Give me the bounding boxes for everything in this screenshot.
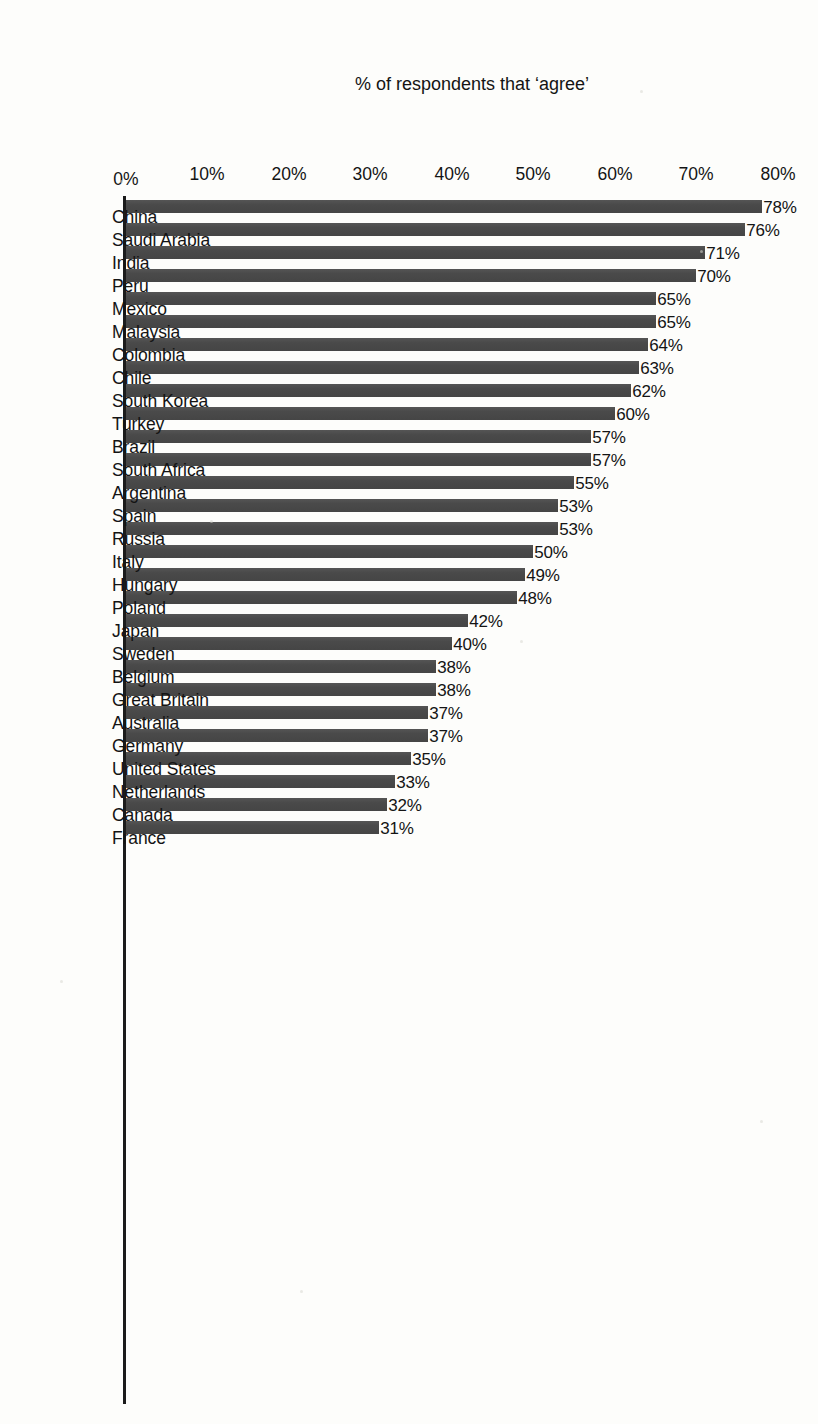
- bar-slot: 53%: [126, 495, 818, 518]
- scan-speckle: [700, 250, 703, 253]
- bar: [126, 430, 591, 443]
- bar: [126, 200, 762, 213]
- category-label-text: France: [112, 828, 166, 849]
- bar-value-label: 49%: [527, 566, 560, 586]
- category-label-text: Russia: [112, 529, 165, 550]
- bar-value-label: 62%: [633, 382, 666, 402]
- bar-value-label: 53%: [559, 497, 592, 517]
- bar-value-label: 70%: [698, 267, 731, 287]
- category-label-text: Great Britain: [112, 690, 209, 711]
- bar-value-label: 55%: [576, 474, 609, 494]
- axis-tick-label: 20%: [279, 157, 300, 192]
- bar-value-label: 31%: [380, 819, 413, 839]
- bar-slot: 76%: [126, 219, 818, 242]
- bar-slot: 50%: [126, 541, 818, 564]
- bar-slot: 35%: [126, 748, 818, 771]
- value-axis-tick-labels: 0%10%20%30%40%50%60%70%80%: [126, 150, 818, 196]
- bar-value-label: 38%: [437, 681, 470, 701]
- axis-tick-label: 80%: [768, 157, 789, 192]
- bar-value-label: 37%: [429, 704, 462, 724]
- bar: [126, 315, 656, 328]
- axis-tick-label: 60%: [605, 157, 626, 192]
- bar-slot: 48%: [126, 587, 818, 610]
- category-label-text: Belgium: [112, 667, 175, 688]
- category-label-text: Germany: [112, 736, 183, 757]
- scan-speckle: [640, 90, 643, 93]
- bar-slot: 38%: [126, 656, 818, 679]
- bar-value-label: 78%: [763, 198, 796, 218]
- bar-slot: 63%: [126, 357, 818, 380]
- bar-slot: 32%: [126, 794, 818, 817]
- bar: [126, 269, 697, 282]
- bar-slot: 33%: [126, 771, 818, 794]
- category-label-text: Brazil: [112, 437, 155, 458]
- axis-tick-label: 0%: [116, 167, 137, 192]
- bar-slot: 31%: [126, 817, 818, 840]
- category-label-text: Argentina: [112, 483, 186, 504]
- category-label-text: Colombia: [112, 345, 185, 366]
- bar-slot: 64%: [126, 334, 818, 357]
- bar: [126, 292, 656, 305]
- bar-value-label: 76%: [747, 221, 780, 241]
- category-label-text: United States: [112, 759, 216, 780]
- bar-value-label: 38%: [437, 658, 470, 678]
- bar-slot: 38%: [126, 679, 818, 702]
- category-label-text: Italy: [112, 552, 144, 573]
- axis-tick-label: 40%: [442, 157, 463, 192]
- bar-slot: 62%: [126, 380, 818, 403]
- bar-value-label: 48%: [518, 589, 551, 609]
- bar-slot: 42%: [126, 610, 818, 633]
- bar-slot: 37%: [126, 702, 818, 725]
- bar-value-label: 64%: [649, 336, 682, 356]
- category-label-text: Spain: [112, 506, 156, 527]
- scan-speckle: [210, 520, 213, 523]
- scan-speckle: [300, 1290, 303, 1293]
- bar-value-label: 71%: [706, 244, 739, 264]
- bar-value-label: 42%: [470, 612, 503, 632]
- axis-tick-label: 50%: [523, 157, 544, 192]
- bar-slot: 57%: [126, 449, 818, 472]
- bar-value-label: 40%: [453, 635, 486, 655]
- category-label-text: Chile: [112, 368, 151, 389]
- bar-value-label: 35%: [413, 750, 446, 770]
- bar-slot: 55%: [126, 472, 818, 495]
- category-label-text: Netherlands: [112, 782, 205, 803]
- bar: [126, 545, 534, 558]
- bar-slot: 65%: [126, 288, 818, 311]
- scan-speckle: [120, 180, 123, 183]
- bar-value-label: 63%: [641, 359, 674, 379]
- axis-tick-label: 10%: [197, 157, 218, 192]
- bar-chart-plot: 0%10%20%30%40%50%60%70%80% % of responde…: [0, 0, 818, 1424]
- category-label-text: Sweden: [112, 644, 175, 665]
- value-axis-title: % of respondents that ‘agree’: [355, 74, 589, 95]
- bar-slot: 37%: [126, 725, 818, 748]
- category-label-text: Canada: [112, 805, 173, 826]
- bar-value-label: 33%: [396, 773, 429, 793]
- category-label-text: Malaysia: [112, 322, 180, 343]
- bar-value-label: 57%: [592, 428, 625, 448]
- bar-value-label: 37%: [429, 727, 462, 747]
- bar: [126, 246, 705, 259]
- bar-slot: 65%: [126, 311, 818, 334]
- chart-canvas: 0%10%20%30%40%50%60%70%80% % of responde…: [0, 0, 818, 1424]
- category-label-text: Turkey: [112, 414, 164, 435]
- axis-tick-label: 70%: [686, 157, 707, 192]
- bar: [126, 591, 517, 604]
- bar-slot: 71%: [126, 242, 818, 265]
- bar-slot: 78%: [126, 196, 818, 219]
- bar: [126, 338, 648, 351]
- bar: [126, 361, 639, 374]
- category-label-text: Saudi Arabia: [112, 230, 210, 251]
- category-label-text: India: [112, 253, 149, 274]
- axis-tick-label: 30%: [360, 157, 381, 192]
- category-label-text: South Africa: [112, 460, 205, 481]
- bar-slot: 57%: [126, 426, 818, 449]
- bar-series: 78%76%71%70%65%65%64%63%62%60%57%57%55%5…: [126, 196, 818, 1404]
- bar-slot: 60%: [126, 403, 818, 426]
- category-label-text: Hungary: [112, 575, 177, 596]
- bar-value-label: 60%: [616, 405, 649, 425]
- bar-slot: 49%: [126, 564, 818, 587]
- category-label-text: Australia: [112, 713, 179, 734]
- category-label-text: Poland: [112, 598, 166, 619]
- category-label-text: China: [112, 207, 157, 228]
